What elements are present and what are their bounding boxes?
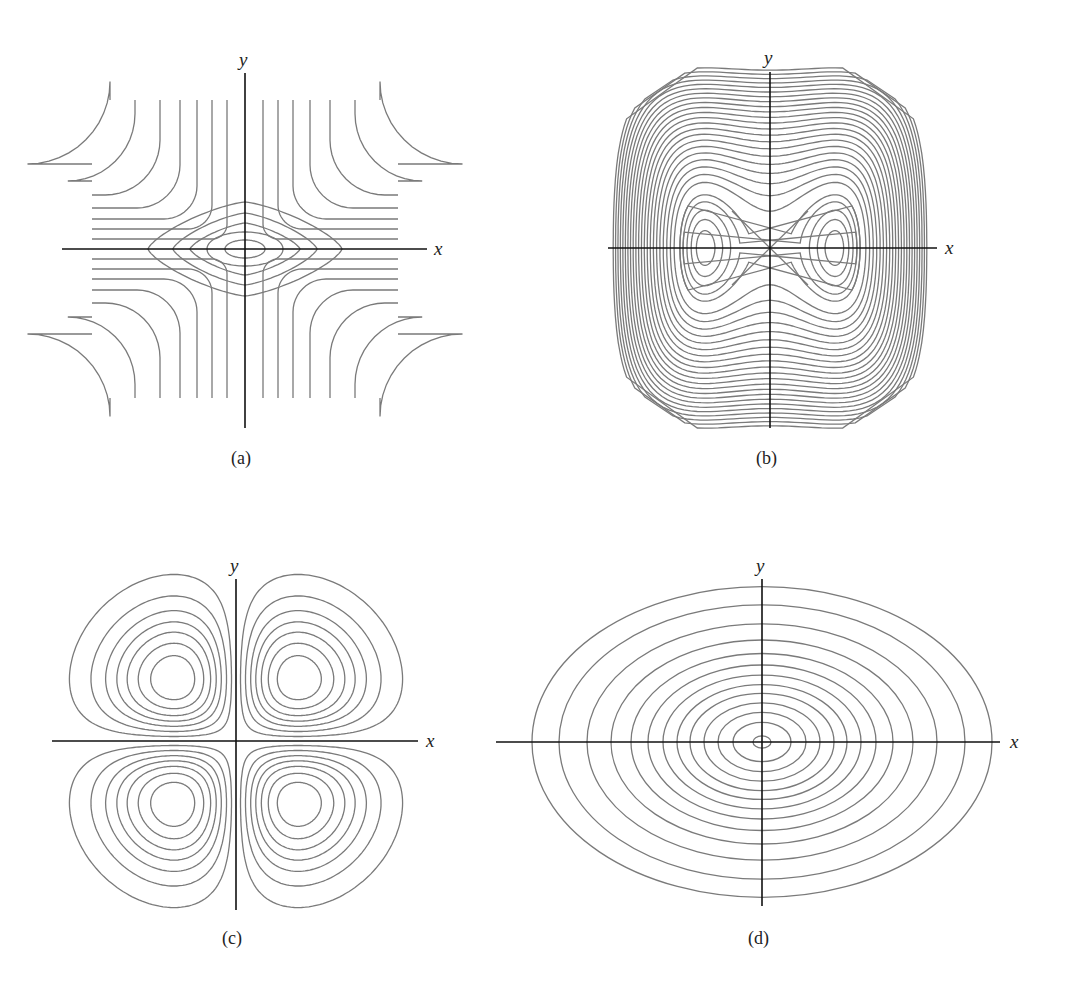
contour-line: [251, 611, 367, 727]
contour-line: [277, 782, 321, 826]
contour-line: [278, 269, 398, 398]
contour-line: [69, 574, 231, 736]
contour-line: [355, 100, 422, 181]
contour-line: [127, 632, 211, 716]
panel-c-x-label: x: [425, 730, 435, 751]
contour-line: [127, 766, 211, 850]
contour-line: [69, 746, 231, 908]
panel-c-caption: (c): [222, 928, 242, 949]
panel-d-x-label: x: [1009, 731, 1019, 752]
contour-line: [293, 100, 398, 219]
contour-line: [277, 656, 321, 700]
contour-line: [92, 100, 197, 219]
contour-line: [261, 766, 345, 850]
contour-line: [92, 100, 180, 208]
panel-a-caption: (a): [231, 448, 251, 469]
panel-c-y-label: y: [228, 555, 239, 576]
contour-line: [106, 756, 222, 872]
contour-line: [92, 279, 197, 398]
contour-line: [261, 632, 345, 716]
panel-b-caption: (b): [756, 448, 777, 469]
panel-c-clover-contours: x y (c): [52, 555, 435, 949]
contour-line: [68, 317, 135, 398]
contour-line: [92, 290, 180, 398]
contour-line: [151, 656, 195, 700]
panel-d-y-label: y: [754, 555, 765, 576]
contour-line: [278, 100, 398, 229]
contour-line: [28, 82, 111, 165]
contour-line: [151, 782, 195, 826]
contour-line: [355, 317, 422, 398]
contour-line: [380, 334, 463, 417]
contour-line: [92, 100, 212, 229]
contour-line: [310, 100, 398, 208]
panel-d-caption: (d): [748, 928, 769, 949]
contour-line: [28, 334, 111, 417]
panel-b-y-label: y: [762, 47, 773, 68]
contour-line: [310, 290, 398, 398]
contour-line: [241, 746, 403, 908]
panel-b-x-label: x: [944, 237, 954, 258]
panel-a-y-label: y: [237, 49, 248, 70]
panel-d-ellipse-contours: x y (d): [496, 555, 1019, 949]
contour-line: [92, 269, 212, 398]
contour-line: [241, 574, 403, 736]
contour-line: [293, 279, 398, 398]
contour-line: [380, 82, 463, 165]
contour-line: [106, 611, 222, 727]
panel-b-double-well-contours: x y (b): [608, 47, 954, 469]
contour-line: [68, 100, 135, 181]
panel-a-saddle-contours: x y (a): [28, 49, 463, 469]
contour-line: [251, 756, 367, 872]
contour-figure: x y (a) x y (b) x y (c) x y (d): [0, 0, 1067, 985]
panel-a-x-label: x: [433, 238, 443, 259]
